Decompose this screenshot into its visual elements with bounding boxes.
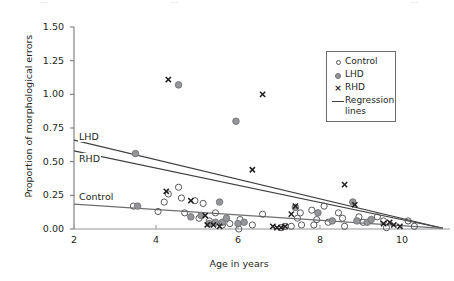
x-tick-label: 10 <box>390 234 414 245</box>
chart-legend: Control LHD × RHD Regression lines <box>326 51 396 122</box>
x-tick-label: 2 <box>62 234 86 245</box>
data-point-rhd <box>342 182 347 187</box>
legend-label-lhd: LHD <box>345 69 364 80</box>
data-point-lhd <box>315 210 322 217</box>
legend-item-control[interactable]: Control <box>331 56 391 69</box>
data-point-control <box>161 199 167 205</box>
chart-figure: … … … Proportion of morphological errors… <box>0 0 454 281</box>
data-point-lhd <box>233 118 240 125</box>
data-point-lhd <box>134 203 141 210</box>
regression-line-lhd <box>74 140 443 228</box>
y-tick-label: 0.00 <box>30 223 64 234</box>
legend-item-regression-lines[interactable]: Regression lines <box>331 95 391 117</box>
data-point-lhd <box>235 220 242 227</box>
x-axis-label: Age in years <box>74 258 404 269</box>
data-point-rhd <box>166 77 171 82</box>
filled-circle-icon <box>331 69 345 82</box>
data-point-control <box>182 210 188 216</box>
y-tick-label: 1.00 <box>30 88 64 99</box>
legend-item-rhd[interactable]: × RHD <box>331 82 391 95</box>
regression-label-lhd: LHD <box>78 131 100 142</box>
y-tick-label: 1.25 <box>30 55 64 66</box>
data-point-control <box>342 223 348 229</box>
data-point-control <box>297 210 303 216</box>
x-tick-label: 4 <box>144 234 168 245</box>
legend-label-regression-lines: Regression lines <box>345 95 394 117</box>
data-point-lhd <box>188 214 195 221</box>
data-point-control <box>249 222 255 228</box>
data-point-control <box>175 184 181 190</box>
data-point-rhd <box>188 198 193 203</box>
data-point-control <box>335 210 341 216</box>
data-point-control <box>178 195 184 201</box>
cross-icon: × <box>331 82 345 95</box>
x-tick-label: 6 <box>226 234 250 245</box>
data-point-rhd <box>260 92 265 97</box>
legend-label-control: Control <box>345 56 378 67</box>
data-point-control <box>339 215 345 221</box>
open-circle-icon <box>331 56 345 69</box>
data-point-lhd <box>368 216 375 223</box>
data-point-lhd <box>354 218 361 225</box>
y-tick-label: 0.25 <box>30 189 64 200</box>
regression-label-rhd: RHD <box>78 153 101 164</box>
data-point-lhd <box>132 150 139 157</box>
y-tick-label: 1.50 <box>30 21 64 32</box>
x-tick-label: 8 <box>308 234 332 245</box>
data-point-lhd <box>241 219 248 226</box>
data-point-control <box>309 207 315 213</box>
data-point-control <box>200 200 206 206</box>
y-tick-label: 0.75 <box>30 122 64 133</box>
line-segment-icon <box>331 95 345 108</box>
data-point-lhd <box>216 199 223 206</box>
data-point-lhd <box>223 215 230 222</box>
legend-item-lhd[interactable]: LHD <box>331 69 391 82</box>
legend-label-rhd: RHD <box>345 82 365 93</box>
data-point-rhd <box>250 167 255 172</box>
data-point-lhd <box>329 218 336 225</box>
data-point-lhd <box>175 82 182 89</box>
data-point-control <box>298 222 304 228</box>
y-tick-label: 0.50 <box>30 156 64 167</box>
regression-label-control: Control <box>78 191 114 202</box>
data-point-rhd <box>289 212 294 217</box>
data-point-control <box>288 223 294 229</box>
